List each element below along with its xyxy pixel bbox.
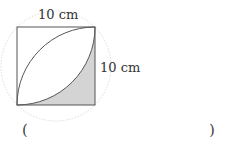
answer-open-paren: ( bbox=[22, 123, 28, 138]
answer-close-paren: ) bbox=[209, 123, 215, 138]
top-side-label: 10 cm bbox=[38, 8, 78, 21]
right-side-label: 10 cm bbox=[100, 61, 140, 74]
answer-blank[interactable] bbox=[34, 122, 204, 140]
